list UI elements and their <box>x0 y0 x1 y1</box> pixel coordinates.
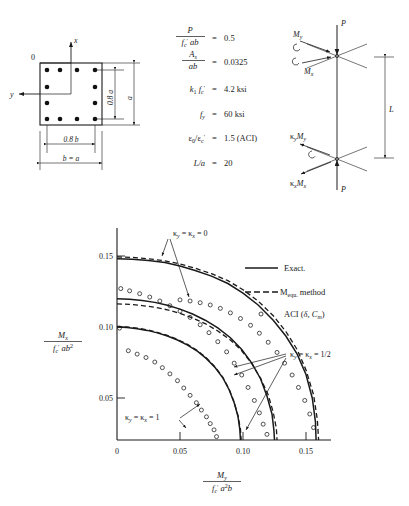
bottom-moment-y-arrow <box>300 144 330 155</box>
chart-ylabel-numerator: Mx <box>57 330 68 341</box>
param-row-0: P fc′ ab = 0.5 <box>176 25 235 48</box>
length-label: L <box>388 104 394 114</box>
legend-label-exact: Exact. <box>284 263 305 273</box>
bottom-load-label: P <box>340 185 346 194</box>
chart-data-marker <box>148 295 152 299</box>
chart-data-marker <box>199 408 203 412</box>
parameter-list: P fc′ ab = 0.5 As ab = 0.0325 k1 fc′ = 4… <box>176 25 257 168</box>
chart-data-marker <box>208 303 212 307</box>
chart-data-marker <box>252 398 256 402</box>
annotation-kappa-1: κy = κx = 1 <box>125 413 159 423</box>
figure-svg: x y 0 0.8 a a <box>0 0 409 506</box>
param-row-5: L/a = 20 <box>193 158 233 168</box>
param-3-equals: = <box>212 109 217 119</box>
annotation-kappa-half-leaders <box>234 354 286 430</box>
top-moment-y-arrow <box>300 41 330 52</box>
param-3-value: 60 ksi <box>224 109 245 119</box>
chart-x-ticks <box>180 432 306 440</box>
chart-data-marker <box>135 352 139 356</box>
chart-data-marker <box>261 422 265 426</box>
param-2-value: 4.2 ksi <box>224 84 247 94</box>
chart-data-marker <box>138 292 142 296</box>
param-0-numerator: P <box>186 25 192 35</box>
chart-data-marker <box>207 331 211 335</box>
legend-label-aci: ACI (δ, Cm) <box>284 309 325 320</box>
chart-xtick-label-2: 0.10 <box>236 447 250 456</box>
chart-data-marker <box>308 412 312 416</box>
chart-data-marker <box>216 340 220 344</box>
param-row-4: ε0/εc′ = 1.5 (ACI) <box>188 133 257 144</box>
chart-y-axis-label: Mx fc′ ab2 <box>44 330 82 354</box>
param-5-value: 20 <box>224 158 233 168</box>
param-row-1: As ab = 0.0325 <box>182 49 247 71</box>
param-1-equals: = <box>212 57 217 67</box>
chart-data-marker <box>240 373 244 377</box>
chart-data-marker <box>249 323 253 327</box>
chart-annotations: κy = κx = 0 κy = κx = 1/2 κy = κx = 1 <box>125 229 331 430</box>
chart-data-marker <box>303 398 307 402</box>
param-row-2: k1 fc′ = 4.2 ksi <box>190 84 248 95</box>
top-load-label: P <box>340 19 346 28</box>
chart-data-marker <box>265 432 269 436</box>
chart-data-marker <box>175 379 179 383</box>
chart-data-marker <box>160 366 164 370</box>
annotation-kappa-1-leaders <box>179 404 200 428</box>
chart-xtick-label-1: 0.05 <box>173 447 187 456</box>
chart-data-marker <box>168 372 172 376</box>
param-0-equals: = <box>212 33 217 43</box>
axis-y-label: y <box>9 90 14 99</box>
chart-data-marker <box>194 401 198 405</box>
dim-outer-width-label: b = a <box>63 154 80 163</box>
bottom-moment-x-arrow <box>301 162 331 174</box>
chart-data-marker <box>232 361 236 365</box>
bottom-moment-curl-icon <box>309 151 316 158</box>
chart-ylabel-denominator: fc′ ab2 <box>53 343 73 354</box>
chart-data-marker <box>218 306 222 310</box>
interaction-chart: 0.15 0.10 0.05 0 0.05 0.10 0.15 Mx fc′ a… <box>44 228 331 494</box>
chart-ytick-label-1: 0.10 <box>99 323 113 332</box>
horizontal-dimensions <box>40 125 102 170</box>
chart-data-marker <box>212 428 216 432</box>
annotation-kappa-half: κy = κx = 1/2 <box>290 350 331 360</box>
param-0-denominator: fc′ ab <box>182 37 199 48</box>
dim-outer-height-label: a <box>125 96 134 100</box>
dim-inner-width-label: 0.8 b <box>64 135 79 144</box>
chart-data-marker <box>238 317 242 321</box>
param-1-value: 0.0325 <box>224 57 247 67</box>
chart-data-marker <box>266 340 270 344</box>
param-0-value: 0.5 <box>224 33 235 43</box>
cross-section-diagram: x y 0 0.8 a a <box>9 36 140 170</box>
annotation-kappa-0-leader-a <box>162 239 168 256</box>
chart-data-marker <box>119 287 123 291</box>
param-1-numerator: As <box>188 49 197 60</box>
param-3-lhs: fy <box>200 109 205 120</box>
dim-inner-height-label: 0.8 a <box>106 90 115 105</box>
chart-ytick-label-2: 0.05 <box>99 394 113 403</box>
param-2-equals: = <box>212 84 217 94</box>
chart-curve-mequ-kappa-1 <box>117 326 241 440</box>
top-moment-x-label: Mx <box>303 67 314 77</box>
axis-x-label: x <box>73 36 78 45</box>
chart-data-marker <box>128 289 132 293</box>
chart-x-axis-label: My fc′ a2b <box>203 470 241 494</box>
chart-data-marker <box>257 331 261 335</box>
origin-label: 0 <box>31 53 35 62</box>
chart-data-marker <box>198 301 202 305</box>
top-moment-y-label: My <box>292 30 303 40</box>
chart-data-marker <box>246 385 250 389</box>
chart-data-marker <box>182 386 186 390</box>
chart-legend: Exact. Mequ. method ACI (δ, Cm) <box>245 263 326 320</box>
param-4-lhs: ε0/εc′ <box>188 133 205 144</box>
chart-data-marker <box>296 385 300 389</box>
param-4-equals: = <box>212 133 217 143</box>
chart-data-marker <box>153 360 157 364</box>
chart-data-marker <box>188 299 192 303</box>
chart-data-marker <box>158 299 162 303</box>
section-quadrant-lines <box>40 63 71 94</box>
legend-swatch-aci <box>259 312 263 316</box>
param-row-3: fy = 60 ksi <box>200 109 245 120</box>
chart-data-marker <box>178 298 182 302</box>
legend-label-mequ: Mequ. method <box>280 287 326 298</box>
chart-data-marker <box>215 435 219 439</box>
chart-data-marker <box>204 415 208 419</box>
